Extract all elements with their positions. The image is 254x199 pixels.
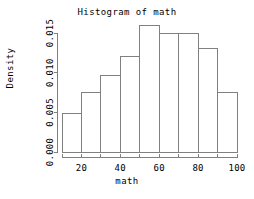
y-axis-tick-label: 0.000 <box>45 138 55 167</box>
histogram-bar <box>198 49 217 152</box>
histogram-bar <box>140 25 159 152</box>
x-axis-tick-label: 80 <box>192 163 203 173</box>
y-axis-tick-label: 0.005 <box>45 98 55 127</box>
histogram-bars <box>62 25 237 152</box>
histogram-bar <box>62 114 81 152</box>
histogram-bar <box>179 33 198 152</box>
histogram-bar <box>218 93 237 153</box>
x-axis: 20406080100 <box>62 154 246 173</box>
plot-area: 0.0000.0050.0100.015 20406080100 <box>0 0 254 199</box>
histogram-bar <box>101 76 120 152</box>
histogram-bar <box>120 57 139 152</box>
y-axis: 0.0000.0050.0100.015 <box>45 19 58 167</box>
y-axis-tick-label: 0.010 <box>45 58 55 87</box>
x-axis-tick-label: 100 <box>228 163 245 173</box>
histogram-bar <box>81 93 100 153</box>
histogram-bar <box>159 33 178 152</box>
histogram-chart: Histogram of math Density math 0.0000.00… <box>0 0 254 199</box>
y-axis-tick-label: 0.015 <box>45 19 55 48</box>
x-axis-tick-label: 60 <box>154 163 165 173</box>
x-axis-tick-label: 40 <box>115 163 126 173</box>
x-axis-tick-label: 20 <box>76 163 87 173</box>
